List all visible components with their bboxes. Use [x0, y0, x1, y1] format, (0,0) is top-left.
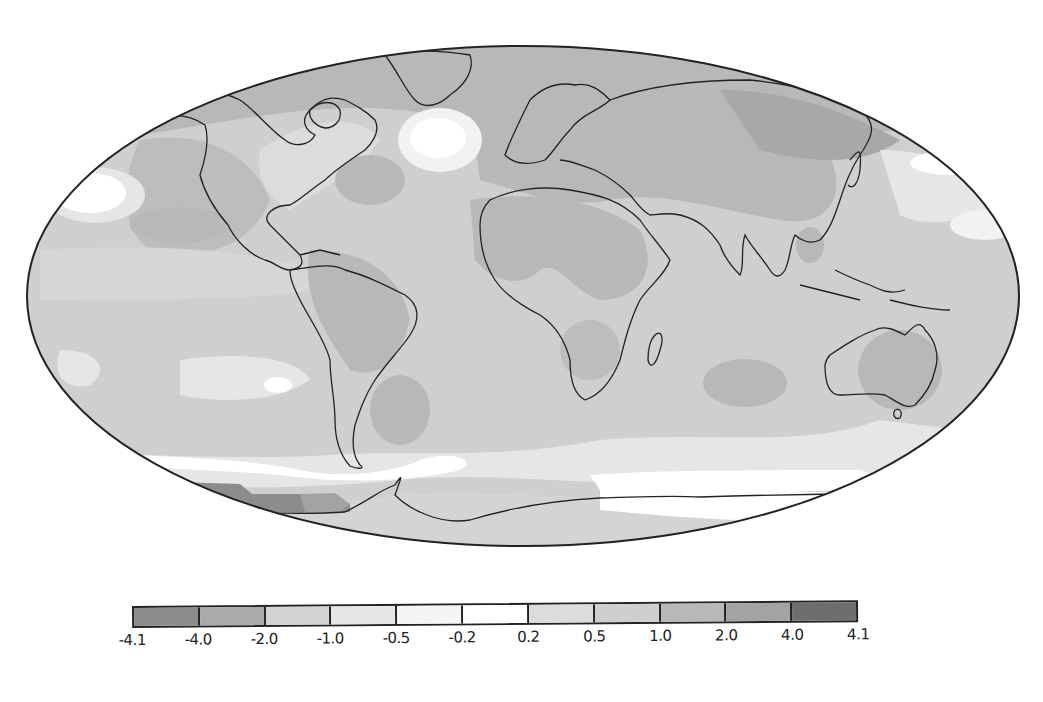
- legend-swatch: [726, 603, 792, 622]
- legend-tick-label: 2.0: [715, 626, 738, 644]
- legend-tick-label: -2.0: [251, 630, 278, 648]
- world-map: [0, 0, 1043, 600]
- legend-tick-label: 4.1: [847, 625, 870, 643]
- legend-tick-label: 0.2: [517, 628, 540, 646]
- legend-tick-label: -0.2: [448, 628, 475, 646]
- legend-swatch: [529, 604, 595, 623]
- legend-tick-label: 0.5: [583, 627, 606, 645]
- legend-swatch: [595, 604, 661, 623]
- legend-labels: -4.1 -4.0 -2.0 -1.0 -0.5 -0.2 0.2 0.5 1.…: [132, 622, 858, 648]
- legend-tick-label: -4.1: [119, 631, 146, 649]
- legend-tick-label: -0.5: [383, 629, 410, 647]
- legend-swatch: [463, 605, 529, 624]
- anomaly-field: [0, 0, 1043, 600]
- legend-tick-label: 1.0: [649, 627, 672, 645]
- legend-tick-label: -1.0: [317, 629, 344, 647]
- legend-swatch: [331, 606, 397, 625]
- legend-tick-label: -4.0: [185, 630, 212, 648]
- legend-swatch: [397, 605, 463, 624]
- legend-swatch: [660, 603, 726, 622]
- legend-swatch: [792, 602, 856, 621]
- legend-tick-label: 4.0: [781, 626, 804, 644]
- legend-swatch: [200, 607, 266, 626]
- legend-swatch: [266, 606, 332, 625]
- legend-swatch: [134, 607, 200, 626]
- color-legend: -4.1 -4.0 -2.0 -1.0 -0.5 -0.2 0.2 0.5 1.…: [132, 600, 858, 646]
